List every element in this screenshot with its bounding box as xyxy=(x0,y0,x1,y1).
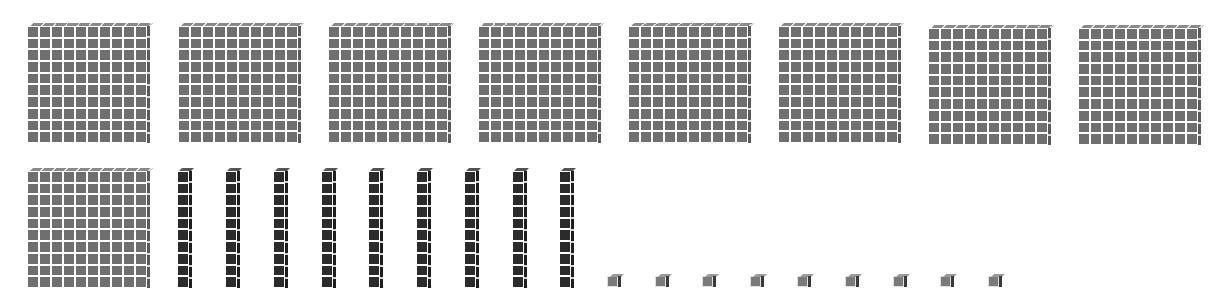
unit-block-ones xyxy=(845,276,856,287)
unit-block-ones xyxy=(797,276,808,287)
rod-block-tens xyxy=(273,171,285,288)
unit-block-ones xyxy=(940,276,951,287)
flat-block-hundreds xyxy=(27,26,147,143)
rod-block-tens xyxy=(225,171,237,288)
unit-block-ones xyxy=(702,276,713,287)
rod-block-tens xyxy=(368,171,380,288)
flat-block-hundreds xyxy=(628,26,748,143)
unit-block-ones xyxy=(893,276,904,287)
unit-block-ones xyxy=(750,276,761,287)
flat-block-hundreds xyxy=(328,26,448,143)
unit-block-ones xyxy=(988,276,999,287)
rod-block-tens xyxy=(464,171,476,288)
flat-block-hundreds xyxy=(778,26,898,143)
rod-block-tens xyxy=(321,171,333,288)
rod-block-tens xyxy=(559,171,571,288)
rod-block-tens xyxy=(177,171,189,288)
unit-block-ones xyxy=(607,276,618,287)
flat-block-hundreds xyxy=(1078,28,1198,145)
unit-block-ones xyxy=(655,276,666,287)
flat-block-hundreds xyxy=(27,171,147,288)
flat-block-hundreds xyxy=(178,26,298,143)
flat-block-hundreds xyxy=(478,26,598,143)
rod-block-tens xyxy=(416,171,428,288)
rod-block-tens xyxy=(512,171,524,288)
flat-block-hundreds xyxy=(928,28,1048,145)
